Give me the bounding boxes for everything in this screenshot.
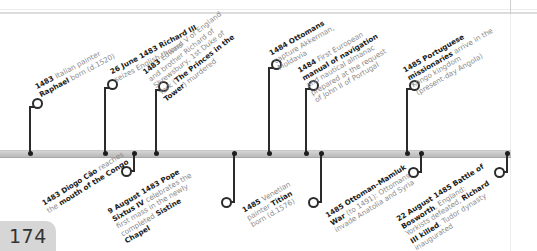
page-number-tab: 174 [0,221,56,251]
page-margin-line [510,14,511,251]
event-label-titian: 1485 Venetianpainter Titianborn (d.1576) [241,180,301,229]
page-rule-top-thin [0,9,537,10]
column-divider [510,0,511,14]
marker-ring-icon [494,167,505,178]
marker-ring-icon [32,98,43,109]
event-label-missionaries: 1485 Portuguesemissionaries arrive in th… [402,19,503,97]
event-label-sistine: 9 August 1483 PopeSixtus IV celebrates t… [107,164,207,246]
page-number: 174 [9,225,47,247]
page-rule-top [0,12,537,14]
timeline-bar [0,150,511,158]
marker-ring-icon [221,197,232,208]
marker-ring-icon [308,197,319,208]
